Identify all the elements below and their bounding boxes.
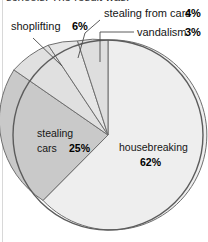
pie-slices (0, 39, 207, 230)
label-housebreaking: housebreaking (119, 141, 188, 153)
label-shoplifting-value: 6% (72, 20, 88, 32)
label-vandalism-value: 3% (185, 26, 201, 38)
label-stealing-cars-line2: cars (37, 142, 57, 154)
label-stealing-from-cars: stealing from cars (104, 7, 191, 19)
label-vandalism: vandalism (137, 26, 187, 38)
outside-labels: shoplifting 6% stealing from cars 4% van… (11, 7, 201, 38)
label-stealing-from-cars-value: 4% (185, 7, 201, 19)
label-stealing-cars-value: 25% (69, 142, 91, 154)
pie-chart-svg: shoplifting 6% stealing from cars 4% van… (0, 0, 208, 242)
label-housebreaking-value: 62% (140, 156, 162, 168)
pie-chart-figure: schools. The result was: (0, 0, 208, 242)
label-shoplifting: shoplifting (11, 20, 61, 32)
label-stealing-cars-line1: stealing (37, 127, 73, 139)
